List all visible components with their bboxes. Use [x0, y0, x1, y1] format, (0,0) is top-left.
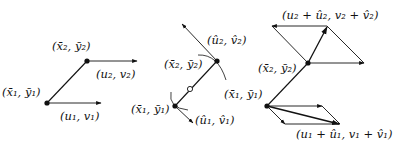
label-p2: (x̄₂, ȳ₂)	[52, 39, 91, 53]
label-p2: (x̄₂, ȳ₂)	[164, 57, 203, 71]
parallelogram-edge-top-right	[327, 26, 364, 63]
label-p1: (x̄₁, ȳ₁)	[224, 87, 263, 101]
point-p2-dot	[214, 58, 219, 63]
vector-sum-2-arrow	[308, 27, 327, 63]
point-p2-dot	[84, 58, 89, 63]
label-p1: (x̄₁, ȳ₁)	[2, 85, 41, 99]
panel-1: (x̄₂, ȳ₂) (x̄₁, ȳ₁) (u₂, v₂) (u₁, v₁)	[2, 39, 137, 123]
vector-sum-1-arrow	[267, 106, 339, 124]
panel-3: (u₂ + û₂, v₂ + v̂₂) (x̄₂, ȳ₂) (x̄₁, ȳ₁) …	[224, 8, 392, 141]
label-u2hat-v2hat: (û₂, v̂₂)	[207, 33, 246, 47]
segment-line	[47, 61, 87, 103]
point-p1-dot	[44, 100, 49, 105]
point-p1-dot	[264, 103, 269, 108]
label-sum-1: (u₁ + û₁, v₁ + v̂₁)	[296, 127, 392, 141]
label-p1: (x̄₁, ȳ₁)	[131, 102, 170, 116]
point-p2-dot	[305, 60, 310, 65]
parallelogram-edge-top-left	[272, 26, 308, 63]
label-u1-v1: (u₁, v₁)	[60, 109, 99, 123]
vector-addition-diagram: (x̄₂, ȳ₂) (x̄₁, ȳ₁) (u₂, v₂) (u₁, v₁) (û…	[0, 0, 404, 150]
midpoint-open-circle	[187, 86, 192, 91]
vector-u1hat-v1hat-arrow	[175, 106, 193, 123]
label-u2-v2: (u₂, v₂)	[96, 67, 135, 81]
label-p2: (x̄₂, ȳ₂)	[258, 61, 297, 75]
point-p1-dot	[172, 103, 177, 108]
panel-2: (û₂, v̂₂) (x̄₂, ȳ₂) (x̄₁, ȳ₁) (û₁, v̂₁)	[131, 24, 246, 127]
parallelogram-edge-bottom-right	[322, 106, 340, 124]
label-sum-2: (u₂ + û₂, v₂ + v̂₂)	[282, 8, 378, 22]
label-u1hat-v1hat: (û₁, v̂₁)	[195, 113, 234, 127]
